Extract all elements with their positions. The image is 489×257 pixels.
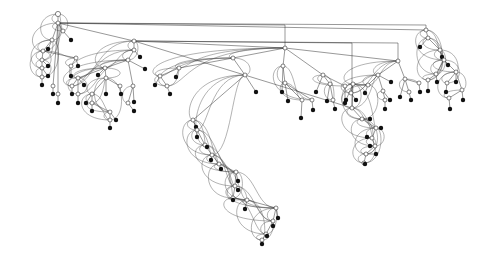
leaf-node: [314, 90, 318, 94]
back-edge: [68, 68, 105, 94]
internal-node: [61, 29, 65, 33]
leaf-node: [363, 162, 367, 166]
leaf-node: [153, 83, 157, 87]
internal-node: [373, 144, 377, 148]
leaf-node: [174, 75, 178, 79]
edge: [283, 48, 285, 66]
leaf-node: [132, 100, 136, 104]
internal-node: [69, 64, 73, 68]
leaf-node: [444, 90, 448, 94]
back-edge: [347, 108, 362, 119]
back-edge: [153, 48, 285, 76]
internal-node: [460, 88, 464, 92]
internal-node: [118, 84, 122, 88]
edge: [323, 75, 345, 86]
leaf-node: [168, 92, 172, 96]
edge: [444, 60, 456, 72]
leaf-node: [286, 99, 290, 103]
edge: [285, 83, 312, 100]
edge: [105, 60, 128, 68]
internal-node: [351, 82, 355, 86]
edge: [106, 78, 120, 86]
internal-node: [417, 81, 421, 85]
internal-node: [407, 90, 411, 94]
internal-node: [126, 101, 130, 105]
leaf-node: [40, 83, 44, 87]
back-edge: [233, 198, 266, 234]
internal-node: [132, 48, 136, 52]
leaf-node: [76, 64, 80, 68]
back-edge: [353, 84, 376, 128]
leaf-node: [354, 98, 358, 102]
leaf-node: [90, 109, 94, 113]
internal-node: [300, 98, 304, 102]
edge: [78, 68, 105, 78]
edge: [398, 61, 405, 79]
internal-node: [90, 92, 94, 96]
internal-node: [310, 98, 314, 102]
leaf-node: [205, 145, 209, 149]
leaf-node: [231, 198, 235, 202]
internal-node: [438, 48, 442, 52]
internal-node: [131, 84, 135, 88]
internal-node: [245, 198, 249, 202]
internal-node: [426, 36, 430, 40]
leaf-node: [389, 80, 393, 84]
internal-node: [217, 162, 221, 166]
internal-node: [350, 106, 354, 110]
leaf-node: [236, 179, 240, 183]
internal-node: [364, 152, 368, 156]
internal-node: [90, 101, 94, 105]
internal-node: [360, 117, 364, 121]
leaf-node: [461, 98, 465, 102]
edge: [128, 60, 145, 69]
leaf-node: [46, 74, 50, 78]
back-edge: [219, 164, 247, 200]
internal-node: [424, 28, 428, 32]
edge: [316, 75, 323, 92]
edge: [285, 48, 398, 61]
leaf-node: [409, 98, 413, 102]
internal-node: [233, 184, 237, 188]
back-edge: [189, 75, 245, 120]
edge: [301, 100, 302, 118]
leaf-node: [114, 118, 118, 122]
internal-node: [260, 238, 264, 242]
leaf-node: [325, 99, 329, 103]
edge: [233, 58, 245, 75]
internal-node: [343, 84, 347, 88]
leaf-node: [418, 90, 422, 94]
back-edge: [368, 61, 398, 85]
back-edge: [353, 75, 378, 84]
leaf-node: [119, 92, 123, 96]
internal-node: [454, 70, 458, 74]
leaf-node: [435, 80, 439, 84]
edge: [233, 48, 285, 58]
internal-node: [321, 73, 325, 77]
internal-node: [195, 128, 199, 132]
tree-graph-diagram: [0, 0, 489, 257]
internal-node: [274, 206, 278, 210]
leaf-node: [69, 38, 73, 42]
internal-node: [191, 118, 195, 122]
internal-node: [331, 98, 335, 102]
leaf-node: [265, 234, 269, 238]
leaf-node: [454, 80, 458, 84]
back-edge: [197, 75, 245, 130]
leaf-node: [243, 207, 247, 211]
leaf-node: [82, 83, 86, 87]
leaf-node: [368, 117, 372, 121]
internal-node: [243, 73, 247, 77]
internal-node: [283, 81, 287, 85]
internal-node: [396, 59, 400, 63]
internal-node: [40, 75, 44, 79]
edge: [43, 51, 76, 58]
back-edge: [92, 78, 106, 103]
leaf-node: [365, 135, 369, 139]
edge: [128, 60, 133, 86]
internal-node: [76, 76, 80, 80]
internal-node: [442, 58, 446, 62]
internal-node: [103, 66, 107, 70]
internal-node: [231, 56, 235, 60]
leaf-node: [398, 95, 402, 99]
